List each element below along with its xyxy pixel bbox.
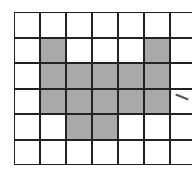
grid-cell (118, 38, 144, 64)
grid-cell (170, 114, 192, 140)
grid-cell (40, 12, 66, 38)
grid-cell (92, 38, 118, 64)
grid-cell (170, 63, 192, 89)
shaded-cell (40, 63, 66, 89)
grid-cell (170, 140, 192, 166)
grid-cell (40, 114, 66, 140)
grid-cell (170, 38, 192, 64)
grid-cell (170, 12, 192, 38)
grid-cell (14, 38, 40, 64)
grid-cell (66, 38, 92, 64)
shaded-cell (118, 63, 144, 89)
grid-cell (118, 114, 144, 140)
grid-cell (144, 12, 170, 38)
grid-cell (144, 140, 170, 166)
grid-cell (118, 12, 144, 38)
shaded-cell (66, 63, 92, 89)
grid-cell (14, 89, 40, 115)
grid-cell (14, 12, 40, 38)
grid-cell (170, 89, 192, 115)
shaded-cell (144, 63, 170, 89)
shaded-cell (92, 63, 118, 89)
grid-cell (92, 12, 118, 38)
shaded-cell (144, 38, 170, 64)
shaded-cell (144, 89, 170, 115)
grid-cell (144, 114, 170, 140)
grid-cell (14, 63, 40, 89)
grid-cell (92, 140, 118, 166)
shaded-cell (66, 114, 92, 140)
shaded-cell (92, 89, 118, 115)
shaded-cell (40, 89, 66, 115)
grid-cell (14, 140, 40, 166)
grid-cell (40, 140, 66, 166)
shaded-cell (118, 89, 144, 115)
shaded-cell (66, 89, 92, 115)
grid-cell (66, 140, 92, 166)
grid-cell (14, 114, 40, 140)
grid-cell (118, 140, 144, 166)
shaded-cell (40, 38, 66, 64)
grid-cell (66, 12, 92, 38)
shaded-cell (92, 114, 118, 140)
